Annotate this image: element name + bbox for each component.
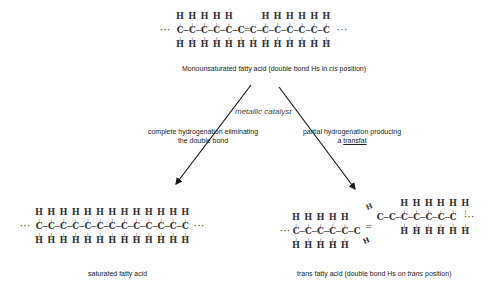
- monounsaturated-label: Monounsaturated fatty acid (double bond …: [182, 65, 366, 72]
- catalyst-label: metallic catalyst: [235, 107, 291, 116]
- complete-hydrogenation-label: complete hydrogenation eliminating the d…: [130, 128, 276, 146]
- chain-continuation-right: ···: [337, 27, 348, 34]
- trans-h-above: H: [365, 202, 374, 211]
- trans-fatty-acid-structure: ··· HHHHH ||||| CCCCCC −−−−− ||||| HHHHH…: [280, 195, 499, 255]
- saturated-fatty-acid-structure: ··· HHHHHHHHHHHHH ||||||||||||| CCCCCCCC…: [20, 208, 200, 248]
- trans-fatty-acid-label: trans fatty acid (double bond Hs on tran…: [297, 270, 451, 277]
- bottom-hydrogen-row: HHHHHHHHHHHHH: [174, 40, 332, 49]
- chain-continuation-left: ···: [160, 27, 171, 34]
- monounsaturated-fatty-acid-structure: HHHHHHHHHHH ||||||||||| ··· CCCCCCCCCCCC…: [160, 12, 360, 52]
- trans-h-below: H: [362, 236, 371, 245]
- partial-hydrogenation-label: partial hydrogenation producing a transf…: [282, 128, 422, 146]
- saturated-label: saturated fatty acid: [88, 270, 147, 277]
